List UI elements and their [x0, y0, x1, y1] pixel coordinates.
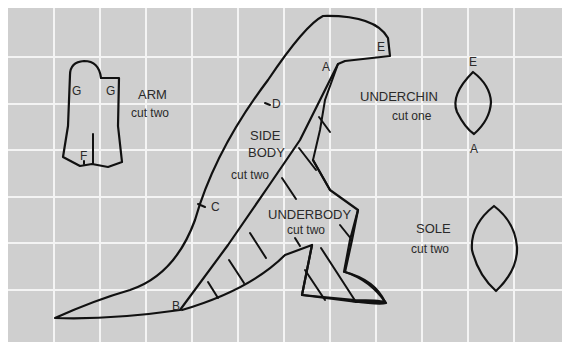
- pattern-board: G G F ARM cut two A E D C B SIDE BODY cu…: [0, 0, 570, 350]
- arm-mark-g-left: G: [72, 84, 81, 98]
- underbody-instruction: cut two: [287, 223, 325, 237]
- arm-title: ARM: [138, 87, 167, 102]
- side-body-mark-c: C: [211, 200, 220, 214]
- sole-instruction: cut two: [411, 242, 449, 256]
- arm-mark-f: F: [80, 149, 87, 163]
- side-body-mark-a: A: [322, 60, 330, 74]
- sole-title: SOLE: [416, 221, 451, 236]
- side-body-mark-d: D: [272, 97, 281, 111]
- arm-mark-g-right: G: [106, 84, 115, 98]
- underchin-mark-e: E: [469, 55, 477, 69]
- arm-instruction: cut two: [131, 106, 169, 120]
- side-body-mark-e: E: [377, 40, 385, 54]
- side-body-mark-b: B: [172, 299, 180, 313]
- underchin-instruction: cut one: [392, 109, 432, 123]
- side-body-instruction: cut two: [231, 168, 269, 182]
- underchin-title: UNDERCHIN: [360, 89, 438, 104]
- underchin-mark-a: A: [470, 142, 478, 156]
- side-body-title-line2: BODY: [248, 145, 285, 160]
- side-body-title-line1: SIDE: [250, 128, 281, 143]
- underbody-title: UNDERBODY: [268, 207, 351, 222]
